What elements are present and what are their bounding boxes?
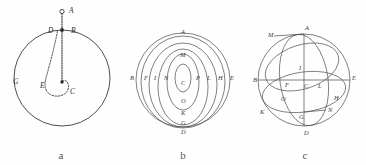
figure-b-label-D: D	[180, 128, 186, 135]
figure-c-label-E: E	[351, 74, 356, 81]
figure-b-label-N: N	[163, 74, 169, 81]
figure-plate: A B D C E G a B F I N P L H E	[0, 0, 366, 165]
figure-b-label-H: H	[217, 74, 223, 81]
figure-c-label-F: F	[284, 81, 289, 88]
figure-b-label-F: F	[143, 74, 148, 81]
figure-c-label-D: D	[303, 129, 309, 136]
figure-a-point-c-marker	[60, 80, 63, 83]
figure-c: M A I B F C L E O H K N G D c	[244, 0, 366, 165]
figure-b-label-E: E	[229, 74, 234, 81]
figure-a-label-C: C	[70, 87, 75, 96]
figure-b-label-M: M	[179, 51, 186, 58]
figure-c-ellipse-tilted-high	[259, 34, 345, 99]
figure-b-label-K: K	[180, 109, 186, 116]
figure-c-label-O: O	[281, 95, 286, 102]
figure-a-dashed-curve	[45, 31, 69, 96]
figure-a-drawing: A B D C E G	[0, 0, 122, 140]
figure-a-label-G: G	[13, 77, 19, 86]
figure-a-point-a-marker	[60, 9, 64, 13]
figure-a: A B D C E G a	[0, 0, 122, 165]
figure-c-label-I: I	[298, 64, 302, 71]
figure-a-caption: a	[0, 149, 122, 161]
figure-b-drawing: B F I N P L H E A M C O K G D	[122, 0, 244, 140]
figure-c-caption: c	[244, 149, 366, 161]
figure-b-label-L: L	[206, 74, 211, 81]
figure-b-label-P: P	[195, 74, 200, 81]
figure-b-label-O: O	[181, 97, 186, 104]
figure-a-label-B: B	[71, 26, 76, 35]
figure-b-label-C: C	[181, 79, 186, 86]
figure-b-label-B: B	[130, 74, 134, 81]
figure-c-label-G: G	[299, 113, 304, 120]
figure-a-label-D: D	[47, 26, 54, 35]
figure-c-label-A: A	[304, 24, 309, 31]
figure-c-label-B: B	[253, 76, 257, 83]
figure-b-oval-5	[175, 64, 191, 92]
figure-a-point-b-marker	[60, 28, 64, 32]
figure-b-label-A: A	[180, 28, 185, 35]
figure-b-label-G: G	[181, 119, 186, 126]
figure-a-label-E: E	[39, 81, 45, 90]
figure-c-label-L: L	[317, 82, 322, 89]
figure-c-label-H: H	[333, 94, 339, 101]
figure-b: B F I N P L H E A M C O K G D b	[122, 0, 244, 165]
figure-c-drawing: M A I B F C L E O H K N G D	[244, 0, 366, 140]
figure-a-label-A: A	[68, 6, 74, 15]
figure-b-label-I: I	[153, 74, 157, 81]
figure-b-caption: b	[122, 149, 244, 161]
figure-c-label-C: C	[304, 82, 309, 89]
figure-c-label-M: M	[267, 31, 274, 38]
figure-c-label-N: N	[327, 106, 333, 113]
figure-c-label-K: K	[259, 108, 265, 115]
